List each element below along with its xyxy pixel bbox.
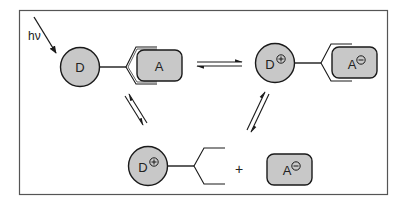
plus-sign: +	[235, 161, 243, 177]
donor-cation-circle	[129, 147, 168, 186]
diagram-frame	[20, 11, 388, 195]
donor-cation-label: D	[265, 57, 274, 72]
donor-cation-circle	[256, 44, 295, 83]
light-label: hν	[28, 29, 41, 43]
donor-label: D	[75, 60, 84, 75]
photoinduced-electron-transfer-diagram: hν D A D A D	[0, 0, 405, 203]
acceptor-anion-label: A	[283, 163, 292, 178]
acceptor-anion-label: A	[348, 57, 357, 72]
acceptor-label: A	[155, 59, 164, 74]
donor-cation-label: D	[138, 160, 147, 175]
